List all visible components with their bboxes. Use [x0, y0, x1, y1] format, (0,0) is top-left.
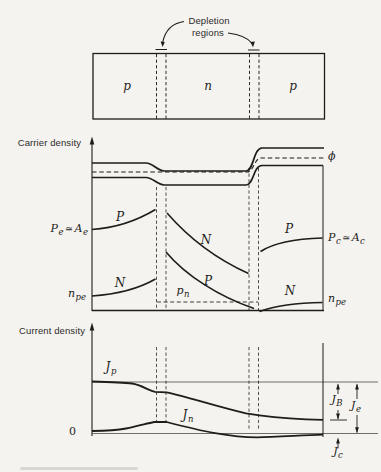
current-axis-label: Current density — [19, 326, 85, 336]
emitter-p-curve-label: P — [116, 211, 124, 223]
phi-label: ϕ — [328, 151, 336, 162]
current-density-plot — [90, 323, 378, 449]
base-n-curve-label: N — [201, 234, 212, 246]
collector-n-level-label: npe — [328, 293, 346, 307]
carrier-axis-arrow-icon — [90, 137, 95, 145]
jp-curve-label: Jp — [106, 361, 117, 376]
carrier-axis-label: Carrier density — [18, 138, 81, 148]
collector-p-curve-label: P — [285, 223, 293, 235]
depletion-label-line1: Depletion — [188, 16, 229, 26]
emitter-n-level-label: npe — [68, 288, 86, 302]
cropped-caption-fragment — [20, 467, 138, 470]
jn-curve — [92, 422, 323, 437]
pnp-transistor-figure: Depletion regions p n p Carrier density … — [0, 0, 381, 472]
base-p-curve-label: P — [204, 275, 212, 287]
jp-curve — [92, 382, 323, 420]
jn-curve-label: Jn — [183, 409, 194, 424]
pn-level-label: pn — [176, 285, 189, 299]
collector-p-level-label: Pc≃Ac — [328, 232, 365, 246]
potential-lower-curve — [92, 166, 323, 186]
region-label-p-collector: p — [289, 80, 297, 92]
jc-dimension-label: Jc — [333, 446, 343, 460]
collector-p-curve — [261, 238, 323, 252]
depletion-arrowheads — [161, 42, 255, 48]
depletion-label-line2: regions — [192, 28, 224, 38]
region-label-p-emitter: p — [123, 80, 131, 92]
emitter-n-curve-label: N — [115, 277, 126, 289]
region-label-n-base: n — [204, 80, 212, 92]
jb-dimension-label: JB — [331, 394, 342, 408]
collector-n-curve-label: N — [285, 285, 296, 297]
zero-label: 0 — [69, 426, 76, 437]
current-depletion-dashed-lines — [157, 347, 259, 429]
depletion-tick-bars — [156, 50, 260, 51]
potential-upper-curve — [92, 148, 324, 171]
current-axis-arrow-icon — [90, 323, 95, 331]
je-dimension-label: Je — [351, 400, 361, 414]
emitter-p-level-label: Pe≃Ae — [51, 223, 88, 237]
